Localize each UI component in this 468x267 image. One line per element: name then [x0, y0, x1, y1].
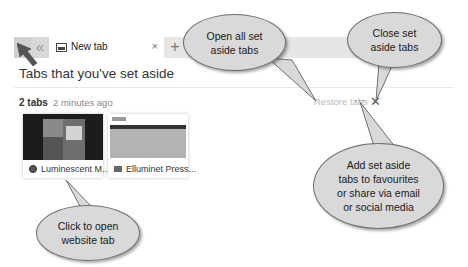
callout-open-all: Open all setaside tabs — [183, 14, 286, 71]
callout-click: Click to openwebsite tab — [36, 205, 140, 261]
cursor-arrow-icon — [17, 43, 47, 69]
callout-close: Close setaside tabs — [347, 12, 442, 68]
callout-share: Add set asidetabs to favouritesor share … — [313, 143, 444, 229]
